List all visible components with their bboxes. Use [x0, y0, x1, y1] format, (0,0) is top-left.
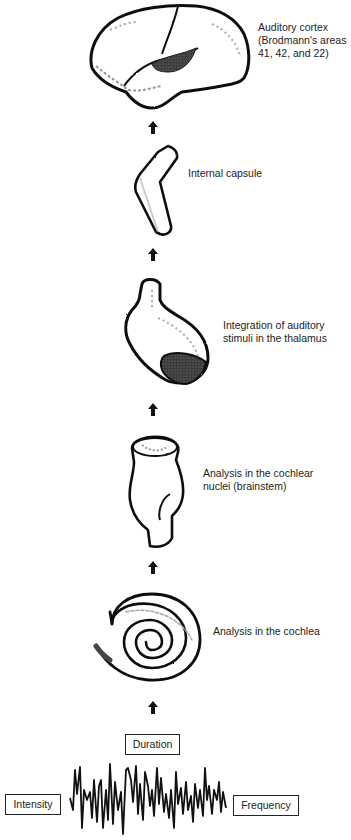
duration-box: Duration: [125, 734, 180, 755]
label-line: Integration of auditory: [223, 319, 327, 332]
label-line: nuclei (brainstem): [203, 480, 313, 493]
thalamus-label: Integration of auditory stimuli in the t…: [223, 319, 327, 345]
label-line: Internal capsule: [188, 167, 262, 180]
up-arrow-icon: [148, 701, 158, 714]
cochlear-nuclei-label: Analysis in the cochlear nuclei (brainst…: [203, 467, 313, 493]
label-line: 41, 42, and 22): [258, 47, 346, 60]
up-arrow-icon: [148, 561, 158, 574]
up-arrow-icon: [148, 121, 158, 134]
internal-capsule-label: Internal capsule: [188, 167, 262, 180]
auditory-pathway-diagram: Auditory cortex (Brodmann's areas 41, 42…: [0, 0, 351, 840]
brain-cortex-icon: [91, 6, 249, 109]
label-line: Analysis in the cochlea: [213, 625, 320, 638]
up-arrow-icon: [148, 403, 158, 416]
auditory-cortex-label: Auditory cortex (Brodmann's areas 41, 42…: [258, 21, 346, 60]
thalamus-icon: [126, 280, 208, 385]
sound-waveform-icon: [70, 764, 226, 834]
label-line: Analysis in the cochlear: [203, 467, 313, 480]
label-line: stimuli in the thalamus: [223, 332, 327, 345]
label-line: (Brodmann's areas: [258, 34, 346, 47]
cochlea-icon: [96, 594, 200, 680]
intensity-box: Intensity: [5, 794, 61, 815]
up-arrow-icon: [148, 248, 158, 261]
cochlea-label: Analysis in the cochlea: [213, 625, 320, 638]
label-line: Auditory cortex: [258, 21, 346, 34]
cochlear-nuclei-icon: [130, 437, 184, 547]
frequency-box: Frequency: [233, 795, 299, 816]
internal-capsule-icon: [135, 146, 177, 235]
